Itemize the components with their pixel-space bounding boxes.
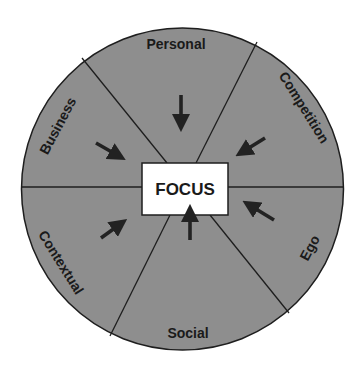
focus-wheel-diagram: FOCUS Personal Competition Ego Social Co… — [0, 0, 364, 373]
focus-label: FOCUS — [155, 180, 215, 199]
segment-label-social: Social — [167, 325, 208, 341]
segment-label-personal: Personal — [146, 36, 205, 52]
